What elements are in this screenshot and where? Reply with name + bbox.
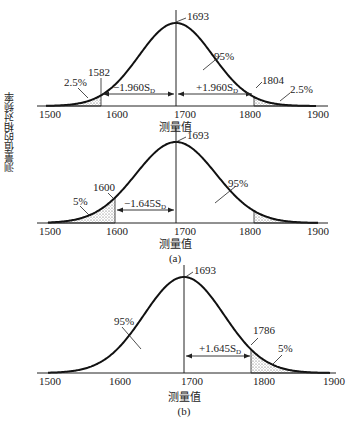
svg-text:+1.960SD: +1.960SD (196, 81, 238, 95)
svg-text:1500: 1500 (39, 375, 62, 387)
normal-curve (48, 142, 318, 223)
caption: (a) (169, 252, 182, 265)
caption: (b) (178, 405, 191, 418)
x-axis-label: 测量值 (168, 391, 201, 404)
svg-text:1900: 1900 (307, 108, 330, 120)
svg-text:1786: 1786 (253, 324, 276, 336)
svg-text:1500: 1500 (39, 225, 62, 237)
svg-text:+1.645SD: +1.645SD (199, 342, 241, 356)
svg-text:95%: 95% (228, 177, 248, 189)
svg-text:1693: 1693 (187, 129, 210, 141)
svg-text:1900: 1900 (323, 375, 346, 387)
svg-text:1600: 1600 (93, 181, 116, 193)
chart-top: 1500 1600 1700 1800 1900 测量值 1693 1582 2… (37, 10, 330, 134)
svg-text:1693: 1693 (194, 264, 217, 276)
chart-b: 1500 1600 1700 1800 1900 测量值 (b) 1693 95… (37, 264, 346, 418)
svg-text:−1.960SD: −1.960SD (113, 81, 155, 95)
svg-text:1800: 1800 (239, 108, 262, 120)
svg-text:95%: 95% (214, 50, 234, 62)
svg-text:1900: 1900 (307, 225, 330, 237)
svg-text:1500: 1500 (39, 108, 62, 120)
x-axis-label: 测量值 (159, 238, 192, 251)
normal-curve (48, 277, 330, 373)
svg-text:1700: 1700 (174, 108, 197, 120)
svg-text:2.5%: 2.5% (64, 76, 87, 88)
svg-text:1800: 1800 (253, 375, 276, 387)
svg-text:1600: 1600 (106, 225, 129, 237)
svg-text:1600: 1600 (109, 375, 132, 387)
svg-text:5%: 5% (278, 342, 293, 354)
svg-text:1693: 1693 (187, 10, 210, 22)
svg-text:95%: 95% (114, 315, 134, 327)
svg-text:1600: 1600 (106, 108, 129, 120)
svg-text:2.5%: 2.5% (290, 83, 313, 95)
svg-text:−1.645SD: −1.645SD (124, 197, 166, 211)
svg-text:1800: 1800 (239, 225, 262, 237)
svg-text:1582: 1582 (88, 66, 110, 78)
chart-a: 1500 1600 1700 1800 1900 测量值 (a) 1693 16… (37, 128, 330, 265)
svg-text:5%: 5% (73, 195, 88, 207)
svg-text:1700: 1700 (174, 225, 197, 237)
svg-text:1700: 1700 (181, 375, 204, 387)
svg-text:1804: 1804 (262, 74, 285, 86)
